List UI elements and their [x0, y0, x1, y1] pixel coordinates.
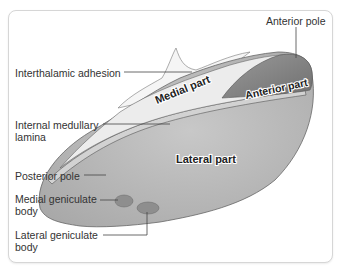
- label-posterior-pole: Posterior pole: [15, 170, 80, 182]
- label-medial-geniculate-line2: body: [15, 205, 38, 217]
- label-interthalamic-adhesion: Interthalamic adhesion: [15, 67, 121, 79]
- label-internal-medullary-lamina-line2: lamina: [15, 131, 46, 143]
- medial-geniculate-shape: [115, 195, 133, 207]
- lateral-part-label: Lateral part: [176, 153, 236, 165]
- label-lateral-geniculate-line2: body: [15, 241, 38, 253]
- lateral-geniculate-shape: [137, 202, 159, 214]
- label-internal-medullary-lamina-line1: Internal medullary: [15, 119, 98, 131]
- label-anterior-pole: Anterior pole: [266, 15, 326, 27]
- label-medial-geniculate-line1: Medial geniculate: [15, 193, 97, 205]
- label-lateral-geniculate-line1: Lateral geniculate: [15, 229, 98, 241]
